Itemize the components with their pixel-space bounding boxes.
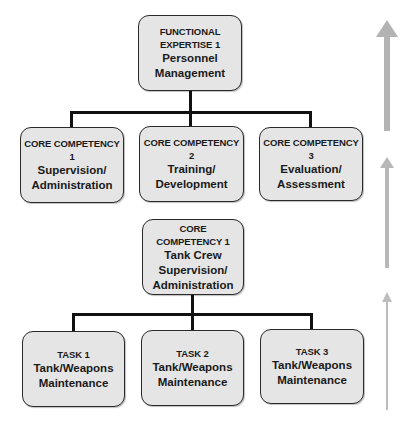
arrow-up-medium-icon [380,157,394,268]
arrow-up-small-icon [382,292,392,410]
arrows-layer [0,0,412,423]
arrow-up-large-icon [376,20,398,131]
